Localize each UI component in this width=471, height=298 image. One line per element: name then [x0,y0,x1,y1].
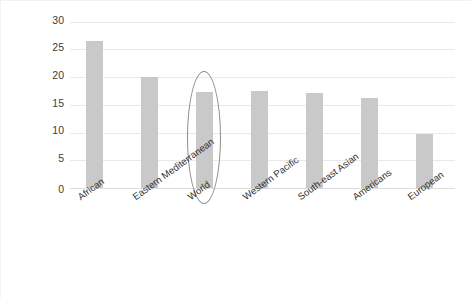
y-tick-10: 10 [38,125,64,136]
y-tick-30: 30 [38,15,64,26]
gridline-30 [70,22,455,23]
bar-eastern-mediterranean [141,77,158,188]
plot-area [70,18,455,192]
gridline-20 [70,77,455,78]
y-tick-0: 0 [38,184,64,195]
figure-top-border [0,0,471,1]
y-tick-25: 25 [38,42,64,53]
gridline-25 [70,49,455,50]
y-tick-20: 20 [38,70,64,81]
bar-african [86,41,103,188]
y-tick-15: 15 [38,98,64,109]
y-tick-5: 5 [38,153,64,164]
chart-figure: Road traffic fatality rate per 100,000 p… [0,0,471,298]
